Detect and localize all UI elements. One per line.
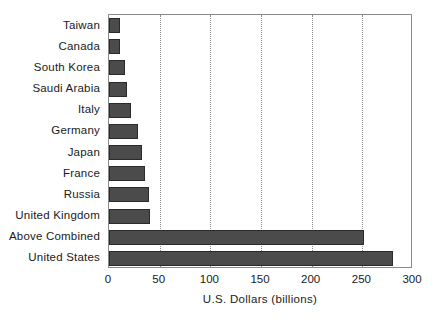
bar-row[interactable] bbox=[109, 100, 413, 121]
category-label: Canada bbox=[0, 40, 100, 52]
x-tick-label: 0 bbox=[105, 272, 111, 286]
plot-area bbox=[108, 14, 412, 268]
x-axis-tick-labels: 050100150200250300 bbox=[108, 272, 412, 288]
bar-row[interactable] bbox=[109, 121, 413, 142]
category-label: Germany bbox=[0, 124, 100, 136]
bar[interactable] bbox=[109, 18, 120, 33]
bar-row[interactable] bbox=[109, 15, 413, 36]
bar-row[interactable] bbox=[109, 142, 413, 163]
bar-row[interactable] bbox=[109, 184, 413, 205]
x-tick-label: 300 bbox=[402, 272, 421, 286]
bar[interactable] bbox=[109, 251, 393, 266]
bar[interactable] bbox=[109, 187, 149, 202]
bar-row[interactable] bbox=[109, 36, 413, 57]
bar-row[interactable] bbox=[109, 248, 413, 269]
x-axis-title: U.S. Dollars (billions) bbox=[108, 293, 412, 305]
category-label: Above Combined bbox=[0, 230, 100, 242]
bar-row[interactable] bbox=[109, 227, 413, 248]
bar[interactable] bbox=[109, 230, 364, 245]
bar-row[interactable] bbox=[109, 57, 413, 78]
category-label: Russia bbox=[0, 188, 100, 200]
bar-row[interactable] bbox=[109, 79, 413, 100]
bar-row[interactable] bbox=[109, 163, 413, 184]
x-tick-label: 150 bbox=[250, 272, 269, 286]
bar[interactable] bbox=[109, 39, 120, 54]
bar-row[interactable] bbox=[109, 206, 413, 227]
bar[interactable] bbox=[109, 82, 127, 97]
category-label: France bbox=[0, 167, 100, 179]
bar[interactable] bbox=[109, 103, 131, 118]
category-label: Saudi Arabia bbox=[0, 82, 100, 94]
bar[interactable] bbox=[109, 145, 142, 160]
x-tick-label: 50 bbox=[152, 272, 165, 286]
x-tick-label: 100 bbox=[200, 272, 219, 286]
category-label: Taiwan bbox=[0, 19, 100, 31]
bar[interactable] bbox=[109, 60, 125, 75]
x-tick-label: 250 bbox=[352, 272, 371, 286]
bar[interactable] bbox=[109, 124, 138, 139]
category-label: Japan bbox=[0, 146, 100, 158]
category-label: United States bbox=[0, 251, 100, 263]
category-axis-labels: TaiwanCanadaSouth KoreaSaudi ArabiaItaly… bbox=[0, 14, 104, 268]
category-label: South Korea bbox=[0, 61, 100, 73]
bar[interactable] bbox=[109, 209, 150, 224]
bars-layer bbox=[109, 15, 411, 267]
category-label: United Kingdom bbox=[0, 209, 100, 221]
bar-chart: TaiwanCanadaSouth KoreaSaudi ArabiaItaly… bbox=[0, 0, 440, 324]
x-tick-label: 200 bbox=[301, 272, 320, 286]
category-label: Italy bbox=[0, 103, 100, 115]
bar[interactable] bbox=[109, 166, 145, 181]
